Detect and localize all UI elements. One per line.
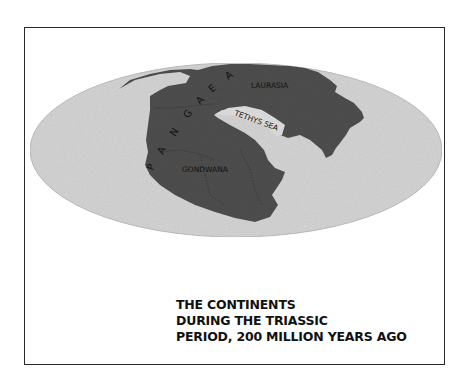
caption-line: PERIOD, 200 MILLION YEARS AGO [176, 329, 407, 345]
caption-line: DURING THE TRIASSIC [176, 313, 407, 329]
caption-line: THE CONTINENTS [176, 297, 407, 313]
figure-caption: THE CONTINENTS DURING THE TRIASSIC PERIO… [176, 297, 407, 345]
gondwana-label: GONDWANA [182, 165, 229, 174]
laurasia-label: LAURASIA [251, 81, 289, 90]
